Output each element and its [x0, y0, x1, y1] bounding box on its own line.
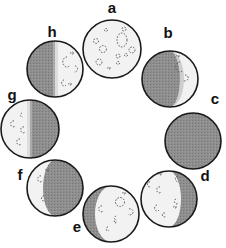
moon-phase-b — [142, 51, 198, 107]
label-c: c — [211, 90, 219, 107]
moon-phase-a — [83, 20, 141, 78]
moon-phase-e — [83, 186, 139, 242]
moon-phase-g — [1, 100, 59, 158]
moon-phase-c — [165, 113, 221, 169]
moon-phase-diagram: a b c d e f g h — [0, 0, 226, 248]
label-f: f — [18, 166, 24, 183]
label-h: h — [47, 23, 56, 40]
label-a: a — [108, 0, 117, 16]
label-d: d — [200, 167, 209, 184]
label-e: e — [73, 218, 81, 235]
moon-phase-d — [141, 171, 197, 227]
label-b: b — [163, 24, 172, 41]
label-g: g — [7, 86, 16, 103]
moon-phase-h — [27, 41, 83, 97]
moon-phase-f — [27, 160, 83, 216]
